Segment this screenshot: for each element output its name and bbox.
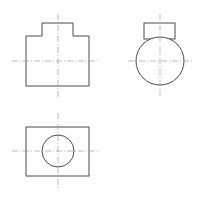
top-view-outline <box>26 127 89 176</box>
side-view <box>128 14 193 96</box>
front-view-outline <box>26 23 89 86</box>
drawing-canvas <box>0 0 203 202</box>
front-view <box>12 14 100 97</box>
top-view <box>12 113 100 190</box>
